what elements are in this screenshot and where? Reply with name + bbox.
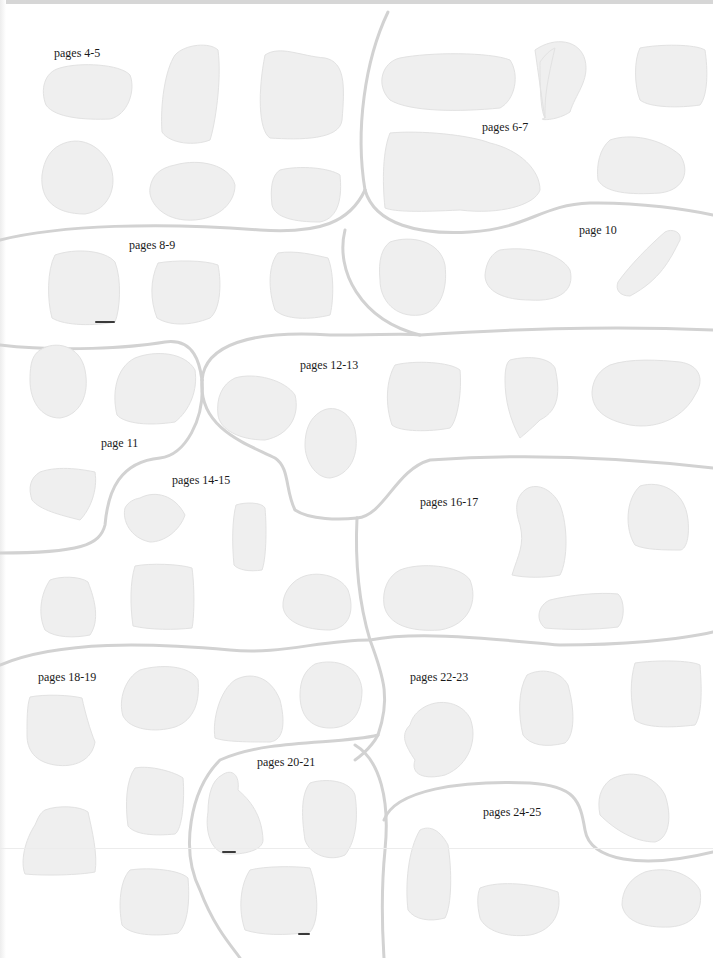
blob xyxy=(43,65,132,120)
blob xyxy=(379,239,445,315)
blob xyxy=(631,661,701,727)
blob xyxy=(636,45,707,107)
blob xyxy=(407,828,451,920)
label-pages-4-5: pages 4-5 xyxy=(54,47,100,59)
label-pages-6-7: pages 6-7 xyxy=(482,121,528,133)
blob xyxy=(233,503,266,571)
blob xyxy=(478,884,559,936)
label-pages-16-17: pages 16-17 xyxy=(420,496,478,508)
blob xyxy=(241,867,317,935)
label-pages-14-15: pages 14-15 xyxy=(172,474,230,486)
blob xyxy=(115,354,196,424)
blob xyxy=(622,870,701,927)
blob xyxy=(305,409,356,478)
blob xyxy=(283,574,351,630)
blob xyxy=(303,781,357,858)
edge-mark xyxy=(95,321,115,323)
blob xyxy=(539,593,623,629)
label-page-10: page 10 xyxy=(579,224,617,236)
label-pages-22-23: pages 22-23 xyxy=(410,671,468,683)
sticker-blobs xyxy=(23,42,707,936)
blob xyxy=(260,51,343,139)
blob xyxy=(214,676,283,742)
label-pages-18-19: pages 18-19 xyxy=(38,671,96,683)
blob xyxy=(124,494,185,542)
label-pages-12-13: pages 12-13 xyxy=(300,359,358,371)
blob xyxy=(598,137,685,194)
label-pages-24-25: pages 24-25 xyxy=(483,806,541,818)
page-fold-line xyxy=(0,848,713,849)
blob xyxy=(131,564,194,629)
blob xyxy=(405,702,473,776)
blob xyxy=(599,774,669,842)
blob xyxy=(387,362,460,430)
label-pages-8-9: pages 8-9 xyxy=(129,239,175,251)
blob xyxy=(30,345,86,418)
blob xyxy=(152,261,220,324)
blob xyxy=(592,360,700,426)
label-page-11: page 11 xyxy=(101,437,138,449)
blob xyxy=(300,662,362,728)
blob xyxy=(150,162,235,220)
blob xyxy=(120,869,189,935)
blob xyxy=(23,807,96,875)
blob xyxy=(383,132,540,211)
sticker-map-canvas xyxy=(0,0,713,958)
blob xyxy=(535,42,586,120)
blob xyxy=(271,168,340,222)
blob xyxy=(628,484,688,550)
boundary-14-15-bottom xyxy=(0,640,370,665)
blob xyxy=(207,772,263,854)
blob xyxy=(485,249,571,300)
blob xyxy=(41,577,96,637)
blob xyxy=(384,566,473,631)
blob xyxy=(505,358,558,438)
boundary-16-17-bottom xyxy=(370,632,713,645)
blob xyxy=(126,767,183,835)
boundary-22-23-left xyxy=(355,745,386,958)
edge-mark xyxy=(222,851,236,853)
blob xyxy=(270,252,333,318)
blob xyxy=(512,486,566,577)
blob xyxy=(49,251,120,325)
blob xyxy=(162,45,220,143)
label-pages-20-21: pages 20-21 xyxy=(257,756,315,768)
blob xyxy=(382,54,515,111)
blob xyxy=(27,695,95,765)
blob xyxy=(30,468,96,520)
blob xyxy=(520,671,573,745)
blob xyxy=(121,667,198,730)
blob xyxy=(218,376,297,440)
edge-mark xyxy=(298,933,310,935)
blob xyxy=(617,230,680,296)
blob xyxy=(42,141,113,214)
